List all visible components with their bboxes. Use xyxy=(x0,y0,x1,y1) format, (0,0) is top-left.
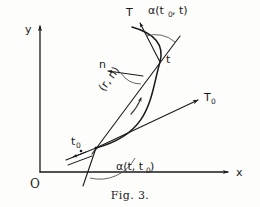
normal-n-label: n xyxy=(99,58,106,71)
tangent-T0-base: T xyxy=(203,91,211,104)
point-marker-t0-aux xyxy=(80,150,83,153)
y-axis-label: y xyxy=(25,23,32,36)
angle-alpha-t0-t-open: α(t xyxy=(148,4,165,17)
point-marker-t0 xyxy=(95,147,98,150)
tangent-T0-subscript: 0 xyxy=(211,97,216,106)
point-t-label: t xyxy=(166,53,171,66)
x-axis-label: x xyxy=(236,166,243,179)
figure-caption: Fig. 3. xyxy=(111,189,149,202)
origin-label: O xyxy=(30,177,40,191)
point-t0-subscript: 0 xyxy=(76,141,81,150)
t0-direction-arrow-icon xyxy=(73,152,86,157)
angle-alpha-t-t0-label: α(t, t 0 ) xyxy=(116,160,154,175)
angle-alpha-t0-t-close: , t) xyxy=(172,4,188,17)
angle-alpha-t0-t-label: α(t 0 , t) xyxy=(148,4,188,19)
tangent-T-label: T xyxy=(125,6,133,19)
angle-arcs-group xyxy=(90,35,175,180)
angle-alpha-t-t0-open: α(t, t xyxy=(116,160,144,173)
point-t0-label: t 0 xyxy=(71,135,81,150)
tangent-T0-group xyxy=(66,100,198,165)
secondary-line-group xyxy=(83,148,96,186)
angle-alpha-t-t0-close: ) xyxy=(150,160,154,173)
chord-lower-extension xyxy=(83,148,96,186)
tangent-T0-label: T 0 xyxy=(203,91,216,106)
figure-3-diagram: y x O T α(t 0 , t) t n (r, n) T xyxy=(0,0,260,207)
figure-container: y x O T α(t 0 , t) t n (r, n) T xyxy=(0,0,260,207)
axis-group xyxy=(40,26,228,172)
